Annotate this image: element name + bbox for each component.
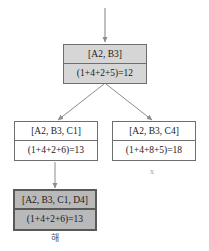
node-state-label: [A2, B3, C4] (113, 122, 195, 141)
node-state-label: [A2, B3, C1, D4] (15, 191, 95, 210)
node-cost-label: (1+4+2+6)=13 (15, 210, 95, 229)
node-cost-label: (1+4+2+5)=12 (64, 64, 146, 83)
tree-node-root[interactable]: [A2, B3] (1+4+2+5)=12 (63, 44, 147, 84)
tree-node-goal[interactable]: [A2, B3, C1, D4] (1+4+2+6)=13 (13, 189, 97, 231)
node-state-label: [A2, B3] (64, 45, 146, 64)
pruned-branch-x-mark: x (140, 167, 164, 176)
node-cost-label: (1+4+8+5)=18 (113, 141, 195, 160)
tree-node-left-child[interactable]: [A2, B3, C1] (1+4+2+6)=13 (14, 121, 98, 161)
node-state-label: [A2, B3, C1] (15, 122, 97, 141)
solution-caption: 해 (33, 231, 77, 244)
edge-root-to-right (106, 84, 152, 120)
tree-diagram-canvas: [A2, B3] (1+4+2+5)=12 [A2, B3, C1] (1+4+… (0, 0, 209, 251)
node-cost-label: (1+4+2+6)=13 (15, 141, 97, 160)
edge-root-to-left (58, 84, 104, 120)
tree-node-right-child[interactable]: [A2, B3, C4] (1+4+8+5)=18 (112, 121, 196, 161)
